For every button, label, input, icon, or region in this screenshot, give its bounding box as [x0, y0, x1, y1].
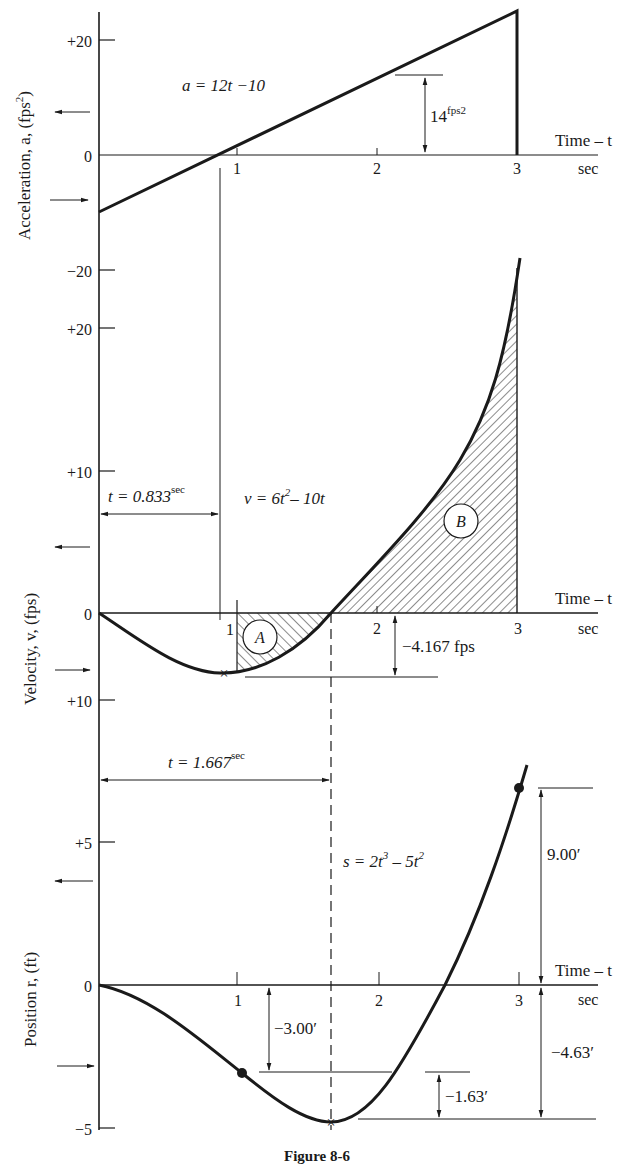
pos-dim-3: −3.00′	[274, 1019, 317, 1038]
svg-text:2: 2	[373, 160, 381, 177]
vel-time-label: Time – t	[555, 589, 612, 608]
svg-text:1: 1	[233, 160, 241, 177]
region-b-label: B	[456, 513, 466, 530]
acc-tick-zero: 0	[84, 148, 92, 165]
region-b	[331, 268, 517, 613]
svg-text:3: 3	[513, 160, 521, 177]
acc-axis-title: Acceleration, a, (fps2)	[13, 91, 34, 240]
acc-tick-minus20: −20	[67, 263, 92, 280]
vel-tick-plus20: +20	[67, 321, 92, 338]
vel-t-dimension: t = 0.833sec	[108, 483, 185, 506]
pos-equation: s = 2t3 – 5t2	[343, 849, 425, 871]
vel-tick-plus10: +10	[67, 464, 92, 481]
pos-min-marker: ×	[326, 1114, 335, 1131]
pos-dim-9: 9.00′	[547, 845, 580, 864]
svg-text:1: 1	[234, 992, 242, 1009]
pos-sec-label: sec	[578, 991, 598, 1008]
region-a-label: A	[254, 629, 265, 646]
acceleration-panel: +20 0 −20 1 2 3 Time – t sec a = 12t −10…	[13, 11, 612, 280]
svg-text:3: 3	[515, 992, 523, 1009]
pos-dim-463: −4.63′	[551, 1043, 594, 1062]
svg-text:1: 1	[226, 621, 234, 638]
pos-tick-zero: 0	[84, 978, 92, 995]
svg-text:2: 2	[375, 992, 383, 1009]
acc-tick-plus20: +20	[67, 33, 92, 50]
pos-t-dimension: t = 1.667sec	[168, 749, 245, 772]
acc-time-label: Time – t	[555, 131, 612, 150]
pos-tick-minus5: −5	[75, 1121, 92, 1138]
pos-point-t1	[237, 1068, 247, 1078]
vel-min-marker: ×	[219, 665, 228, 682]
acc-equation: a = 12t −10	[182, 76, 265, 95]
pos-axis-title: Position r, (ft)	[21, 952, 40, 1047]
acc-sec-label: sec	[578, 160, 598, 177]
vel-axis-title: Velocity, v, (fps)	[21, 593, 40, 705]
acc-dimension: 14fps2	[430, 104, 466, 126]
vel-min-dimension: −4.167 fps	[402, 637, 475, 656]
pos-dim-163: −1.63′	[445, 1087, 488, 1106]
figure-caption: Figure 8-6	[0, 1148, 634, 1165]
vel-tick-zero: 0	[84, 606, 92, 623]
velocity-panel: +20 +10 0 1 2 3 Time – t sec × A B v = 6…	[21, 258, 612, 705]
kinematics-figure: +20 0 −20 1 2 3 Time – t sec a = 12t −10…	[0, 0, 634, 1172]
position-panel: +10 +5 0 −5 1 2 3 Time – t sec × s = 2t3…	[21, 693, 612, 1138]
svg-text:3: 3	[514, 620, 522, 637]
pos-tick-plus5: +5	[75, 835, 92, 852]
pos-curve	[99, 765, 527, 1122]
pos-time-label: Time – t	[555, 961, 612, 980]
vel-sec-label: sec	[578, 620, 598, 637]
vel-equation: v = 6t2– 10t	[244, 486, 326, 508]
svg-text:2: 2	[373, 620, 381, 637]
pos-point-t3	[514, 783, 524, 793]
pos-tick-plus10: +10	[67, 693, 92, 710]
